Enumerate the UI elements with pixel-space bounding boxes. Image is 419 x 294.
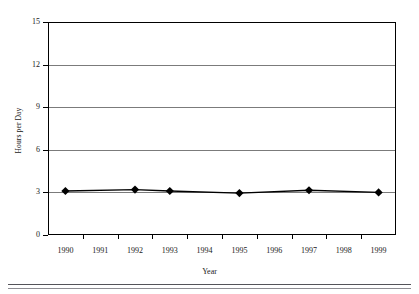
- x-tick-mark: [222, 235, 223, 239]
- y-tick-label: 3: [18, 188, 40, 196]
- data-point-marker: [235, 189, 243, 197]
- y-tick-label: 6: [18, 146, 40, 154]
- data-point-marker: [61, 187, 69, 195]
- x-tick-mark: [187, 235, 188, 239]
- y-tick-mark: [43, 65, 48, 66]
- y-tick-label: 0: [18, 231, 40, 239]
- x-tick-mark: [292, 235, 293, 239]
- series-line: [65, 190, 378, 194]
- y-tick-mark: [43, 107, 48, 108]
- x-tick-mark: [326, 235, 327, 239]
- y-axis-title: Hours per Day: [14, 86, 23, 176]
- x-tick-mark: [83, 235, 84, 239]
- y-tick-mark: [43, 235, 48, 236]
- footer-rule-lower: [8, 288, 411, 289]
- x-tick-mark: [118, 235, 119, 239]
- y-tick-mark: [43, 150, 48, 151]
- x-axis-title: Year: [0, 267, 419, 276]
- data-point-marker: [166, 187, 174, 195]
- data-point-marker: [131, 185, 139, 193]
- y-tick-label: 9: [18, 103, 40, 111]
- x-tick-mark: [152, 235, 153, 239]
- chart-figure: Hours per Day Year 036912151990199119921…: [0, 0, 419, 294]
- data-point-marker: [305, 186, 313, 194]
- y-tick-mark: [43, 192, 48, 193]
- x-tick-mark: [361, 235, 362, 239]
- data-point-marker: [375, 188, 383, 196]
- y-tick-label: 15: [18, 18, 40, 26]
- x-tick-label: 1999: [359, 246, 399, 255]
- y-tick-label: 12: [18, 61, 40, 69]
- x-tick-mark: [257, 235, 258, 239]
- data-series-layer: [48, 22, 396, 235]
- footer-rule-upper: [8, 284, 411, 285]
- y-tick-mark: [43, 22, 48, 23]
